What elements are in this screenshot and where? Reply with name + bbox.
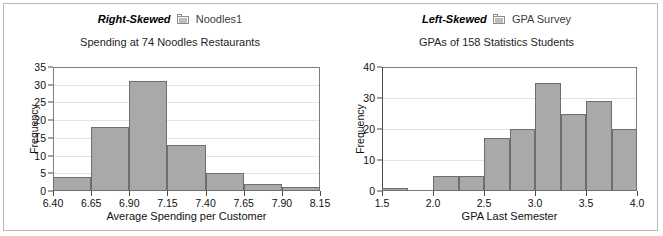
x-axis-title-right: GPA Last Semester: [382, 210, 637, 222]
histogram-bar: [535, 83, 561, 192]
histogram-bar: [206, 173, 244, 191]
histogram-bar: [53, 177, 91, 191]
x-tick-label: 6.40: [43, 197, 63, 209]
y-tick-label: 20: [363, 123, 375, 135]
x-tick-label: 3.5: [579, 197, 594, 209]
x-tick-mark: [535, 191, 536, 196]
x-tick-label: 8.15: [310, 197, 330, 209]
y-tick-label: 5: [40, 167, 46, 179]
y-axis-right: Frequency 0 10 20 30 40: [345, 67, 382, 191]
dataset-name-label: Noodles1: [196, 13, 242, 25]
x-tick-mark: [320, 191, 321, 196]
x-tick-mark: [53, 191, 54, 196]
histogram-figure-panel: Right-Skewed Noodles1 Spending at 74 Noo…: [3, 3, 658, 231]
x-tick-mark: [244, 191, 245, 196]
panel-header-right: Left-Skewed GPA Survey: [336, 13, 657, 25]
y-tick-label: 0: [369, 185, 375, 197]
panel-header-left: Right-Skewed Noodles1: [4, 13, 336, 25]
y-tick-label: 20: [34, 114, 46, 126]
y-tick-label: 30: [34, 79, 46, 91]
x-tick-mark: [484, 191, 485, 196]
histogram-bar: [586, 101, 612, 191]
histogram-bar: [459, 176, 485, 192]
x-tick-mark: [167, 191, 168, 196]
dataset-name-label: GPA Survey: [512, 13, 571, 25]
x-tick-label: 6.65: [81, 197, 101, 209]
histogram-bar: [244, 184, 282, 191]
x-tick-label: 7.65: [233, 197, 253, 209]
y-tick-label: 10: [34, 150, 46, 162]
y-tick-label: 15: [34, 132, 46, 144]
x-tick-label: 7.15: [157, 197, 177, 209]
histogram-plot-area-right: [382, 67, 637, 191]
x-tick-mark: [91, 191, 92, 196]
x-axis-right: GPA Last Semester 1.52.02.53.03.54.0: [382, 191, 637, 221]
x-tick-mark: [129, 191, 130, 196]
y-tick-label: 10: [363, 154, 375, 166]
y-tick-label: 25: [34, 96, 46, 108]
y-axis-left: Frequency 0 5 10 15 20 25 30 35: [16, 67, 53, 191]
x-tick-mark: [206, 191, 207, 196]
y-tick-label: 40: [363, 61, 375, 73]
x-tick-label: 1.5: [375, 197, 390, 209]
x-tick-mark: [433, 191, 434, 196]
x-tick-mark: [586, 191, 587, 196]
x-tick-label: 2.0: [426, 197, 441, 209]
x-tick-mark: [637, 191, 638, 196]
x-tick-label: 7.40: [195, 197, 215, 209]
histogram-bar: [484, 138, 510, 191]
x-tick-label: 7.90: [272, 197, 292, 209]
worksheet-file-icon: [493, 14, 506, 25]
chart-title-right: GPAs of 158 Statistics Students: [336, 36, 657, 48]
y-tick-label: 35: [34, 61, 46, 73]
histogram-bar: [561, 114, 587, 192]
panel-left-skewed: Left-Skewed GPA Survey GPAs of 158 Stati…: [336, 4, 657, 230]
histogram-plot-area-left: [53, 67, 320, 191]
y-tick-label: 0: [40, 185, 46, 197]
y-tick-label: 30: [363, 92, 375, 104]
panel-right-skewed: Right-Skewed Noodles1 Spending at 74 Noo…: [4, 4, 336, 230]
x-tick-label: 3.0: [528, 197, 543, 209]
chart-title-left: Spending at 74 Noodles Restaurants: [4, 36, 336, 48]
histogram-bar: [129, 81, 167, 191]
x-tick-label: 6.90: [119, 197, 139, 209]
histogram-bar: [510, 129, 536, 191]
histogram-bar: [433, 176, 459, 192]
skew-type-label: Left-Skewed: [422, 13, 487, 25]
worksheet-file-icon: [177, 14, 190, 25]
histogram-bar: [612, 129, 638, 191]
skew-type-label: Right-Skewed: [98, 13, 171, 25]
histogram-bar: [167, 145, 205, 191]
x-tick-label: 4.0: [630, 197, 645, 209]
x-axis-title-left: Average Spending per Customer: [53, 210, 320, 222]
x-tick-label: 2.5: [477, 197, 492, 209]
x-tick-mark: [382, 191, 383, 196]
histogram-bars-left: [53, 67, 320, 191]
x-axis-left: Average Spending per Customer 6.406.656.…: [53, 191, 320, 221]
histogram-bar: [91, 127, 129, 191]
histogram-bars-right: [382, 67, 637, 191]
x-tick-mark: [282, 191, 283, 196]
